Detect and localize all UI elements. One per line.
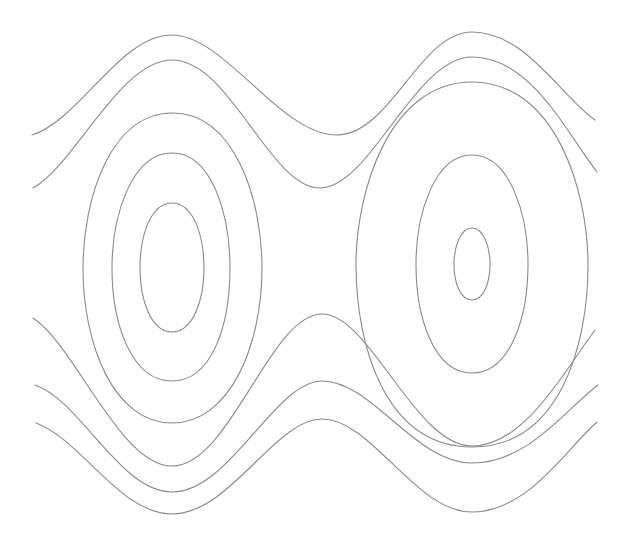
- bottom-wave-2-contour: [35, 381, 598, 492]
- top-wave-1-contour: [32, 32, 595, 135]
- right-oval-inner-contour: [454, 228, 490, 300]
- right-oval-middle-contour: [416, 155, 528, 373]
- left-oval-middle-contour: [112, 153, 230, 381]
- right-oval-outer-contour: [356, 82, 588, 447]
- left-oval-inner-contour: [140, 203, 204, 332]
- top-wave-2-contour: [33, 57, 597, 188]
- left-oval-outer-contour: [83, 113, 262, 423]
- bottom-wave-1-contour: [33, 314, 595, 466]
- contour-diagram: [0, 0, 628, 543]
- contour-lines: [32, 32, 598, 514]
- bottom-wave-3-contour: [36, 419, 597, 514]
